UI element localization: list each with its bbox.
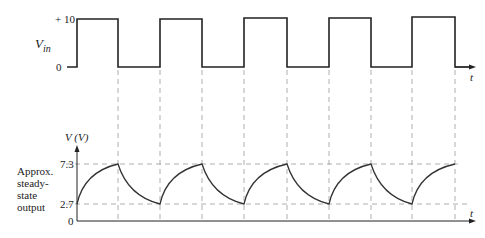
note-line-4: output <box>17 201 53 213</box>
t-axis-arrow-top <box>469 65 476 70</box>
note-line-3: state <box>17 189 53 201</box>
vin-label: Vin <box>35 38 51 54</box>
vin-low-label: 0 <box>56 62 62 73</box>
v-axis-label: V (V) <box>65 132 88 143</box>
vin-label-sub: in <box>43 43 51 54</box>
tick-7-3: 7.3 <box>60 159 74 170</box>
vin-label-main: V <box>35 36 43 51</box>
steady-state-note: Approx. steady- state output <box>17 165 53 213</box>
vin-high-label: + 10 <box>55 14 75 25</box>
tick-2-7: 2.7 <box>60 199 74 210</box>
t-label-top: t <box>470 72 473 83</box>
note-line-2: steady- <box>17 177 53 189</box>
tick-0: 0 <box>68 216 74 227</box>
guide-lines <box>66 70 468 221</box>
t-label-bottom: t <box>470 208 473 219</box>
t-axis-arrow-bottom <box>469 219 476 224</box>
v-axis-label-text: V (V) <box>65 131 88 143</box>
vin-square-wave <box>67 17 470 67</box>
v-axis-arrow <box>75 145 80 152</box>
output-curve <box>77 164 455 204</box>
note-line-1: Approx. <box>17 165 53 177</box>
